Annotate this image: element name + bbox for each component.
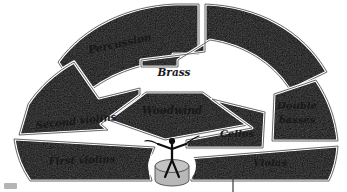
section-first-violins[interactable]: First violins <box>14 139 155 181</box>
double-basses-shape <box>272 80 338 141</box>
seating-chart-canvas: Percussion Brass Woodwind <box>0 0 347 192</box>
cellos-label: Cellos <box>220 128 255 139</box>
violas-label: Violas <box>253 157 287 168</box>
orchestra-seating-diagram: Percussion Brass Woodwind <box>0 0 347 192</box>
section-double-basses[interactable]: Double basses <box>272 80 338 141</box>
double-basses-label-line1: Double <box>276 100 317 111</box>
double-basses-label-line2: basses <box>279 114 316 125</box>
brass-label: Brass <box>156 66 190 78</box>
woodwind-label: Woodwind <box>142 104 203 116</box>
corner-mark <box>4 183 17 189</box>
section-violas[interactable]: Violas <box>189 146 338 181</box>
